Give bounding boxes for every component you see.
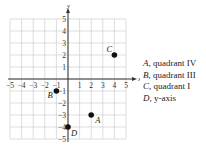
answer-d: D, y-axis [143, 93, 196, 105]
svg-text:y: y [66, 2, 71, 10]
svg-text:x: x [137, 75, 140, 83]
svg-text:−2: −2 [41, 81, 49, 90]
svg-text:C: C [106, 44, 112, 54]
answer-a: A, quadrant IV [143, 58, 196, 70]
svg-text:−3: −3 [58, 111, 66, 120]
svg-text:3: 3 [101, 81, 105, 90]
svg-text:−4: −4 [58, 123, 66, 132]
svg-text:5: 5 [62, 15, 66, 24]
answer-b: B, quadrant III [143, 70, 196, 82]
svg-text:1: 1 [62, 63, 66, 72]
svg-text:−5: −5 [58, 135, 66, 144]
axes: xy [8, 2, 140, 142]
svg-text:3: 3 [62, 39, 66, 48]
svg-text:D: D [70, 128, 78, 138]
svg-text:4: 4 [62, 27, 66, 36]
svg-text:−3: −3 [29, 81, 37, 90]
svg-text:1: 1 [78, 81, 82, 90]
svg-text:−5: −5 [6, 81, 14, 90]
svg-text:−1: −1 [58, 87, 66, 96]
coordinate-plane: xy −5−4−3−2−112345−5−4−3−2−112345 ABCD [0, 0, 140, 147]
svg-text:2: 2 [62, 51, 66, 60]
svg-text:A: A [94, 115, 101, 125]
answer-c: C, quadrant I [143, 81, 196, 93]
svg-text:5: 5 [124, 81, 128, 90]
svg-text:−2: −2 [58, 99, 66, 108]
svg-text:4: 4 [113, 81, 117, 90]
svg-text:−4: −4 [18, 81, 26, 90]
svg-text:2: 2 [89, 81, 93, 90]
svg-text:B: B [47, 90, 52, 100]
answer-legend: A, quadrant IV B, quadrant III C, quadra… [143, 58, 196, 104]
